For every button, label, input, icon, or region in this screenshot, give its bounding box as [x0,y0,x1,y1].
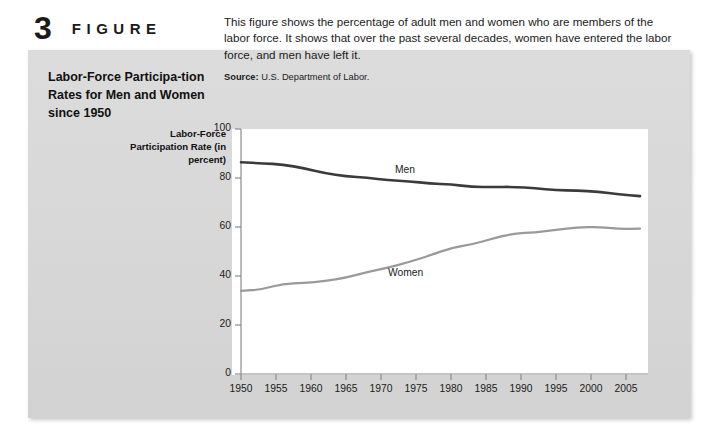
x-tick-label: 1955 [256,383,296,394]
x-tick-label: 2005 [606,383,646,394]
y-tick-label: 80 [191,171,231,182]
x-tick-label: 1960 [291,383,331,394]
figure-panel: Labor-Force Participa-tion Rates for Men… [28,50,690,418]
x-tick-label: 1990 [501,383,541,394]
x-tick-label: 1965 [326,383,366,394]
x-tick-label: 1995 [536,383,576,394]
y-tick-label: 40 [191,269,231,280]
figure-caption: Labor-Force Participa-tion Rates for Men… [48,68,218,122]
series-label-women: Women [388,267,423,278]
y-tick-label: 60 [191,220,231,231]
series-line-men [241,162,640,196]
line-chart-svg [232,129,648,375]
x-tick-label: 1975 [396,383,436,394]
source-label: Source: [224,72,259,82]
x-tick-label: 2000 [571,383,611,394]
chart-block: Labor-Force Participation Rate (in perce… [120,128,680,400]
y-tick-label: 100 [191,122,231,133]
figure-number: 3 [34,12,52,44]
source-text: U.S. Department of Labor. [261,72,369,82]
figure-source: Source: U.S. Department of Labor. [224,72,679,82]
series-line-women [241,227,640,291]
figure-word-label: FIGURE [72,20,162,37]
x-tick-label: 1970 [361,383,401,394]
x-tick-label: 1980 [431,383,471,394]
figure-description: This figure shows the percentage of adul… [224,14,679,63]
figure-description-block: This figure shows the percentage of adul… [224,14,679,82]
series-label-men: Men [395,164,415,175]
y-tick-label: 20 [191,318,231,329]
figure-root: 3 FIGURE Labor-Force Participa-tion Rate… [0,0,708,426]
y-axis-title: Labor-Force Participation Rate (in perce… [120,128,226,166]
y-tick-label: 0 [191,367,231,378]
x-tick-label: 1950 [221,383,261,394]
x-tick-label: 1985 [466,383,506,394]
plot-area [232,129,648,375]
